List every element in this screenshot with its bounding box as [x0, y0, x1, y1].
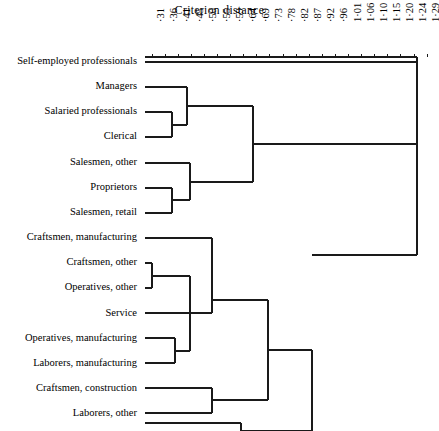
dendrogram-tree: [0, 0, 439, 431]
dendrogram-figure: Criterion distance ·31·36·41·45·50·55·59…: [0, 0, 439, 431]
